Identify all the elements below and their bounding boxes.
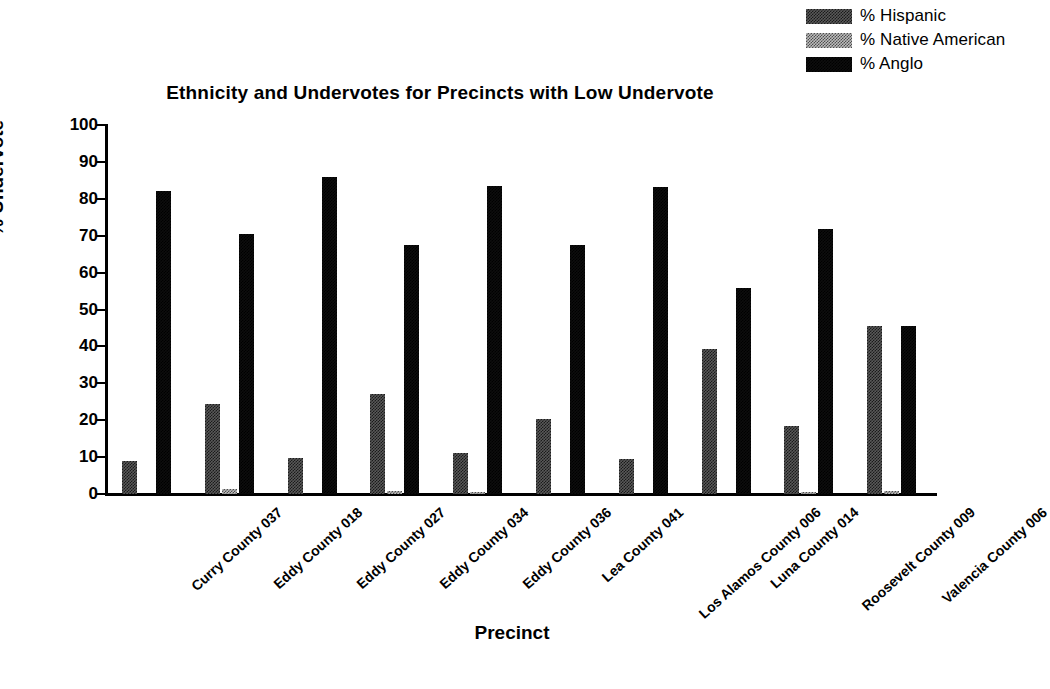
y-tick-label: 10 bbox=[52, 448, 98, 465]
bar-group bbox=[205, 125, 254, 494]
y-tick-label: 20 bbox=[52, 411, 98, 428]
y-axis-title: % Undervote bbox=[0, 120, 8, 236]
x-axis-title: Precinct bbox=[0, 622, 1024, 644]
bar-group bbox=[867, 125, 916, 494]
bar bbox=[453, 453, 468, 494]
y-tick-mark bbox=[96, 161, 105, 163]
x-tick-label: Eddy County 027 bbox=[353, 504, 448, 592]
y-tick-label: 50 bbox=[52, 301, 98, 318]
bar bbox=[653, 187, 668, 494]
legend-item: % Hispanic bbox=[806, 4, 1021, 28]
y-tick-mark bbox=[96, 198, 105, 200]
bar bbox=[867, 326, 882, 494]
bar bbox=[222, 489, 237, 494]
y-tick-label: 30 bbox=[52, 374, 98, 391]
y-tick-mark bbox=[96, 456, 105, 458]
bar-group bbox=[370, 125, 419, 494]
y-tick-mark bbox=[96, 272, 105, 274]
x-tick-label: Roosevelt County 009 bbox=[858, 504, 977, 614]
bar-group bbox=[784, 125, 833, 494]
y-tick-label: 90 bbox=[52, 153, 98, 170]
bar bbox=[818, 229, 833, 494]
y-tick-label: 0 bbox=[52, 485, 98, 502]
bar bbox=[619, 459, 634, 494]
bar bbox=[536, 419, 551, 494]
bar bbox=[322, 177, 337, 494]
bar bbox=[288, 458, 303, 494]
bar bbox=[387, 491, 402, 494]
bar bbox=[470, 492, 485, 494]
bar bbox=[205, 404, 220, 494]
bar-group bbox=[453, 125, 502, 494]
legend-label-hispanic: % Hispanic bbox=[860, 6, 946, 26]
y-tick-label: 80 bbox=[52, 190, 98, 207]
y-tick-label: 60 bbox=[52, 264, 98, 281]
legend-swatch-anglo bbox=[806, 57, 852, 72]
y-tick-mark bbox=[96, 124, 105, 126]
bar bbox=[702, 349, 717, 494]
y-tick-label: 40 bbox=[52, 337, 98, 354]
x-tick-label: Eddy County 036 bbox=[519, 504, 614, 592]
bar bbox=[801, 492, 816, 494]
x-axis-tick-labels: Curry County 037Eddy County 018Eddy Coun… bbox=[107, 498, 937, 618]
y-tick-mark bbox=[96, 493, 105, 495]
legend-label-anglo: % Anglo bbox=[860, 54, 923, 74]
y-axis-tick-labels: 0102030405060708090100 bbox=[52, 125, 98, 494]
bar bbox=[156, 191, 171, 494]
bar bbox=[487, 186, 502, 494]
bar bbox=[884, 491, 899, 494]
bar-group bbox=[619, 125, 668, 494]
y-tick-label: 70 bbox=[52, 227, 98, 244]
legend-item: % Native American bbox=[806, 28, 1021, 52]
legend-item: % Anglo bbox=[806, 52, 1021, 76]
x-tick-label: Eddy County 018 bbox=[270, 504, 365, 592]
y-tick-mark bbox=[96, 235, 105, 237]
bar-group bbox=[536, 125, 585, 494]
chart-title: Ethnicity and Undervotes for Precincts w… bbox=[0, 82, 880, 104]
bar-group bbox=[702, 125, 751, 494]
y-tick-mark bbox=[96, 382, 105, 384]
bar bbox=[570, 245, 585, 494]
y-tick-mark bbox=[96, 345, 105, 347]
chart-legend: % Hispanic % Native American % Anglo bbox=[806, 4, 1021, 76]
plot-area bbox=[107, 125, 935, 494]
bar bbox=[736, 288, 751, 494]
x-tick-label: Eddy County 034 bbox=[436, 504, 531, 592]
bar bbox=[370, 394, 385, 494]
y-tick-label: 100 bbox=[52, 116, 98, 133]
bar-group bbox=[288, 125, 337, 494]
bar bbox=[901, 326, 916, 494]
bar-group bbox=[122, 125, 171, 494]
bar bbox=[122, 461, 137, 494]
bar bbox=[784, 426, 799, 494]
legend-label-native-american: % Native American bbox=[860, 30, 1005, 50]
legend-swatch-hispanic bbox=[806, 9, 852, 24]
y-tick-mark bbox=[96, 309, 105, 311]
bar bbox=[404, 245, 419, 494]
legend-swatch-native-american bbox=[806, 33, 852, 48]
y-tick-mark bbox=[96, 419, 105, 421]
bar bbox=[239, 234, 254, 495]
